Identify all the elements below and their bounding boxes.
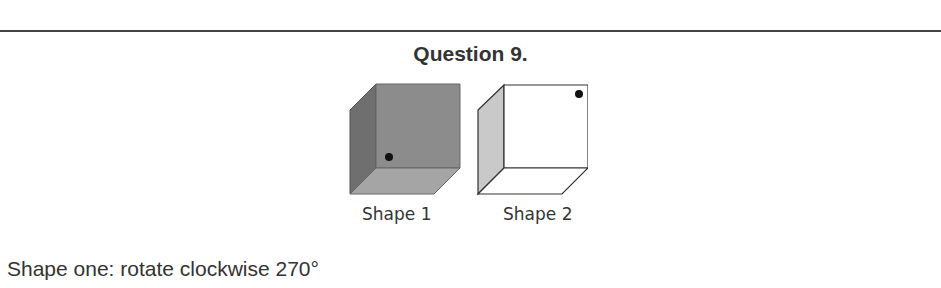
cube-figure (348, 80, 588, 200)
shape-2-cube (478, 85, 588, 194)
shape-1-cube (350, 84, 460, 194)
shape-1-dot (385, 153, 393, 161)
shape-2-label: Shape 2 (503, 204, 572, 224)
question-title: Question 9. (0, 42, 941, 66)
top-divider (0, 30, 941, 32)
shape-2-dot (575, 90, 583, 98)
shape-1-label: Shape 1 (362, 204, 431, 224)
instruction-text: Shape one: rotate clockwise 270° (7, 257, 319, 281)
